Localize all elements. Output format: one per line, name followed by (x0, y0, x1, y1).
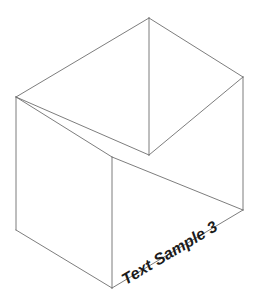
edge-bottom-left (16, 230, 112, 288)
edge-top-front-left (16, 97, 149, 155)
edge-top-back-left (16, 18, 149, 97)
wireframe-canvas: Text Sample 3 (0, 0, 258, 297)
edge-mid-right-slope (112, 157, 243, 210)
edge-top-back-right (149, 18, 243, 77)
wireframe-drawing (0, 0, 258, 297)
edge-top-front-right (149, 77, 243, 155)
edge-mid-left-slope (16, 97, 112, 157)
